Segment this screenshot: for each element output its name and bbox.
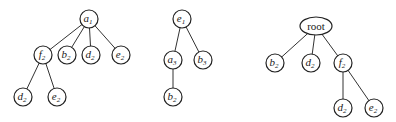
tree-node-e2: e2 [365, 99, 383, 117]
node-label: root [307, 20, 325, 32]
tree-3: rootb2d2f2d2e2 [266, 17, 383, 117]
tree-node-f2: f2 [334, 54, 352, 72]
tree-node-a3: a3 [164, 51, 182, 69]
tree-1: a1f2b2d2e2d2e2 [14, 10, 130, 106]
tree-node-b3: b3 [194, 51, 212, 69]
tree-node-b2: b2 [164, 88, 182, 106]
tree-node-b2: b2 [58, 46, 76, 64]
tree-node-d2: d2 [14, 88, 32, 106]
tree-node-d2: d2 [82, 46, 100, 64]
tree-node-a1: a1 [80, 10, 98, 28]
tree-node-e1: e1 [173, 10, 191, 28]
tree-node-e2: e2 [48, 88, 66, 106]
tree-node-b2: b2 [266, 54, 284, 72]
tree-node-root: root [300, 17, 332, 35]
tree-2: e1a3b3b2 [164, 10, 212, 106]
tree-node-d2: d2 [334, 99, 352, 117]
tree-node-e2: e2 [112, 46, 130, 64]
tree-node-d2: d2 [302, 54, 320, 72]
tree-diagram-canvas: a1f2b2d2e2d2e2e1a3b3b2rootb2d2f2d2e2 [0, 0, 396, 122]
tree-node-f2: f2 [34, 46, 52, 64]
